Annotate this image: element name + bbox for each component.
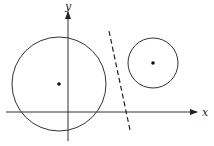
- separating-dashed-line: [109, 31, 130, 130]
- large-circle-center-dot: [57, 82, 61, 86]
- x-axis-label: x: [202, 106, 209, 119]
- small-circle-center-dot: [151, 61, 155, 65]
- diagram-canvas: x y: [0, 0, 214, 146]
- y-axis-label: y: [64, 0, 72, 13]
